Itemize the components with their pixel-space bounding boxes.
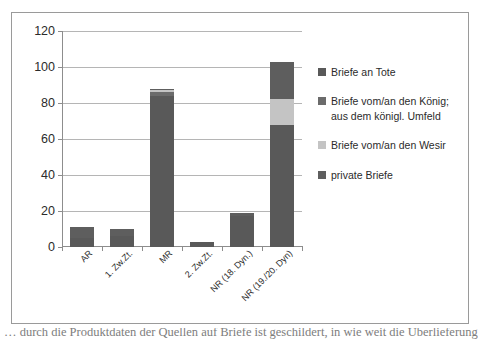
legend-label: Briefe vom/an den König; aus dem königl.…: [331, 94, 468, 123]
bar-stack[interactable]: [270, 62, 294, 247]
y-tick-label: 80: [41, 97, 55, 110]
x-tick-label: AR: [79, 249, 95, 265]
bar-segment[interactable]: [150, 96, 174, 247]
legend-entry[interactable]: private Briefe: [318, 168, 468, 182]
x-tick-label: 1. Zw.Zt.: [104, 249, 135, 280]
legend-swatch-icon: [318, 68, 326, 76]
y-tick-label: 60: [41, 133, 55, 146]
y-tick-label: 120: [34, 25, 55, 38]
bar-segment[interactable]: [110, 236, 134, 247]
bar-stack[interactable]: [190, 242, 214, 247]
x-tick-label: 2. Zw.Zt.: [184, 249, 215, 280]
legend-label: private Briefe: [331, 168, 393, 182]
chart-frame: 020406080100120 AR1. Zw.Zt.MR2. Zw.Zt.NR…: [11, 12, 469, 324]
bar-stack[interactable]: [70, 227, 94, 247]
legend-entry[interactable]: Briefe an Tote: [318, 65, 468, 79]
x-tick-label: MR: [158, 249, 175, 266]
y-tick-label: 20: [41, 205, 55, 218]
chart-legend: Briefe an ToteBriefe vom/an den König; a…: [318, 65, 468, 197]
bar-stack[interactable]: [230, 213, 254, 247]
y-tick-label: 100: [34, 61, 55, 74]
figure: 020406080100120 AR1. Zw.Zt.MR2. Zw.Zt.NR…: [0, 0, 481, 346]
bar-segment[interactable]: [230, 216, 254, 247]
bar-stack[interactable]: [150, 89, 174, 247]
figure-caption-text: … durch die Produktdaten der Quellen auf…: [4, 328, 478, 340]
bar-segment[interactable]: [70, 227, 94, 238]
legend-label: Briefe vom/an den Wesir: [331, 138, 446, 152]
bar-segment[interactable]: [270, 99, 294, 124]
x-tick-mark: [302, 246, 303, 251]
bar-segment[interactable]: [110, 229, 134, 236]
bar-stack[interactable]: [110, 229, 134, 247]
legend-swatch-icon: [318, 141, 326, 149]
bar-segment[interactable]: [70, 238, 94, 247]
legend-swatch-icon: [318, 171, 326, 179]
x-axis-labels: AR1. Zw.Zt.MR2. Zw.Zt.NR (18. Dyn.)NR (1…: [62, 249, 302, 329]
y-tick-label: 40: [41, 169, 55, 182]
plot-area: 020406080100120: [62, 31, 302, 247]
bars-layer: [62, 31, 302, 247]
legend-label: Briefe an Tote: [331, 65, 396, 79]
bar-segment[interactable]: [190, 242, 214, 247]
y-tick-label: 0: [48, 241, 55, 254]
figure-caption: … durch die Produktdaten der Quellen auf…: [4, 328, 478, 346]
legend-swatch-icon: [318, 97, 326, 105]
bar-segment[interactable]: [270, 125, 294, 247]
legend-entry[interactable]: Briefe vom/an den König; aus dem königl.…: [318, 94, 468, 123]
legend-entry[interactable]: Briefe vom/an den Wesir: [318, 138, 468, 152]
bar-segment[interactable]: [270, 62, 294, 100]
